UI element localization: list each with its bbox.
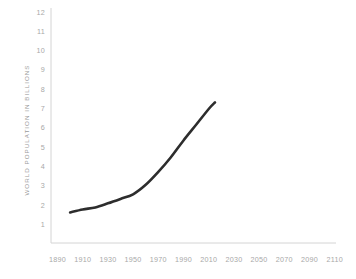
y-axis-tick-labels: 12 11 10 9 8 7 6 5 4 3 2 1 xyxy=(37,8,46,229)
x-tick-label: 2090 xyxy=(301,255,318,264)
y-tick-label: 8 xyxy=(41,85,45,94)
y-tick-label: 1 xyxy=(41,220,45,229)
x-tick-label: 1950 xyxy=(125,255,142,264)
y-tick-label: 2 xyxy=(41,201,45,210)
chart-canvas: 12 11 10 9 8 7 6 5 4 3 2 1 1890 1910 193… xyxy=(0,0,356,279)
x-tick-label: 2050 xyxy=(251,255,268,264)
population-chart: 12 11 10 9 8 7 6 5 4 3 2 1 1890 1910 193… xyxy=(0,0,356,279)
population-line-series xyxy=(70,102,215,212)
x-tick-label: 2110 xyxy=(326,255,342,264)
y-tick-label: 6 xyxy=(41,123,45,132)
x-tick-label: 1930 xyxy=(99,255,116,264)
x-axis-tick-labels: 1890 1910 1930 1950 1970 1990 2010 2030 … xyxy=(49,255,343,264)
y-tick-label: 9 xyxy=(41,65,45,74)
y-tick-label: 11 xyxy=(37,27,45,36)
x-tick-label: 1910 xyxy=(74,255,91,264)
y-axis-title: WORLD POPULATION IN BILLIONS xyxy=(23,64,30,195)
y-tick-label: 5 xyxy=(41,143,45,152)
y-tick-label: 10 xyxy=(37,46,46,55)
x-tick-label: 2070 xyxy=(276,255,293,264)
x-tick-label: 1970 xyxy=(150,255,167,264)
y-tick-label: 7 xyxy=(41,104,45,113)
x-tick-label: 2030 xyxy=(225,255,242,264)
x-tick-label: 1990 xyxy=(175,255,192,264)
y-tick-label: 3 xyxy=(41,181,45,190)
x-tick-label: 1890 xyxy=(49,255,66,264)
x-tick-label: 2010 xyxy=(200,255,217,264)
y-tick-label: 4 xyxy=(41,162,45,171)
y-tick-label: 12 xyxy=(37,8,46,17)
